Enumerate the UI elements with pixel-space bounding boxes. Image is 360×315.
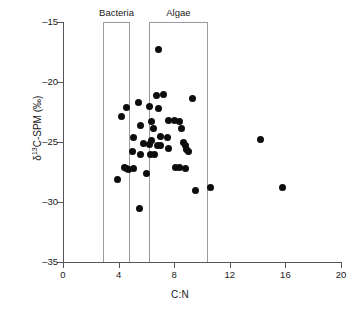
x-axis-line [63,262,342,263]
data-point [189,95,196,102]
data-point [135,99,142,106]
x-tick [341,262,342,268]
data-point [185,148,192,155]
y-axis-title-suffix: C-SPM (‰) [32,96,43,148]
y-axis-title: δ13C-SPM (‰) [31,28,43,228]
data-point [257,136,264,143]
data-point [150,125,157,132]
data-point [129,148,136,155]
scatter-plot-figure: BacteriaAlgae –15–20–25–30–35 048121620 … [0,0,360,315]
data-point [160,91,167,98]
data-point [192,187,199,194]
x-tick-label: 16 [265,269,305,280]
data-point [148,118,155,125]
data-point [146,103,153,110]
x-tick [285,262,286,268]
x-tick-label: 4 [99,269,139,280]
y-axis-title-prefix: δ [32,155,43,161]
x-tick-label: 12 [210,269,250,280]
x-axis-title: C:N [0,289,360,300]
y-tick-label: –15 [42,17,58,27]
data-point [178,125,185,132]
y-tick-label: –20 [42,77,58,87]
data-point [279,184,286,191]
data-point [165,145,172,152]
x-tick [174,262,175,268]
data-point [137,122,144,129]
data-point [182,165,189,172]
data-point [155,105,162,112]
range-label-algae: Algae [119,7,237,18]
data-point [114,176,121,183]
data-point [146,141,153,148]
data-point [143,170,150,177]
data-point [164,134,171,141]
y-axis-title-superscript: 13 [31,147,38,155]
data-point [153,92,160,99]
data-point [155,46,162,53]
x-tick [119,262,120,268]
x-tick-label: 0 [43,269,83,280]
x-tick-label: 20 [321,269,360,280]
data-point [130,134,137,141]
data-point [207,184,214,191]
plot-area [63,22,341,262]
data-point [123,104,130,111]
data-point [136,205,143,212]
data-point [157,142,164,149]
data-point [118,113,125,120]
x-tick [230,262,231,268]
y-tick-label: –30 [42,197,58,207]
data-point [137,151,144,158]
y-tick-label: –35 [42,257,58,267]
x-tick [63,262,64,268]
x-tick-label: 8 [154,269,194,280]
data-point [157,133,164,140]
data-point [130,165,137,172]
y-tick-label: –25 [42,137,58,147]
data-point [176,118,183,125]
data-point [151,151,158,158]
